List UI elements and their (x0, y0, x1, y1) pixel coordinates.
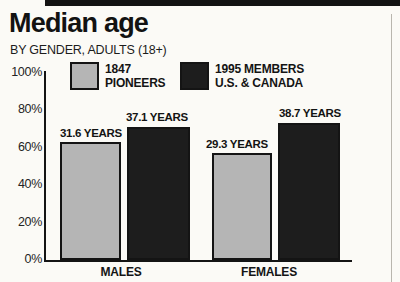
legend-label-members: 1995 MEMBERS U.S. & CANADA (215, 62, 304, 90)
legend-label-members-line1: 1995 MEMBERS (215, 62, 304, 76)
bar-value-females-members: 38.7 YEARS (279, 107, 341, 119)
bar-females-members (278, 123, 340, 260)
bar-males-members (127, 127, 190, 260)
legend-label-pioneers: 1847 PIONEERS (105, 62, 165, 90)
bar-value-males-members: 37.1 YEARS (126, 111, 188, 123)
chart-subtitle: BY GENDER, ADULTS (18+) (10, 43, 166, 57)
legend-swatch-pioneers (70, 62, 99, 90)
category-label-males: MALES (100, 265, 141, 279)
y-tick-80: 80% (0, 102, 42, 116)
bar-value-males-pioneers: 31.6 YEARS (60, 127, 122, 139)
bar-females-pioneers (212, 153, 272, 260)
legend-label-members-line2: U.S. & CANADA (215, 76, 303, 90)
top-rule (45, 0, 400, 6)
chart-title: Median age (9, 8, 148, 39)
legend-swatch-members (180, 62, 209, 90)
legend-label-pioneers-line2: PIONEERS (105, 76, 165, 90)
page-edge-line (391, 14, 392, 282)
y-tick-0: 0% (0, 252, 42, 266)
y-tick-20: 20% (0, 215, 42, 229)
bar-value-females-pioneers: 29.3 YEARS (206, 138, 268, 150)
category-label-females: FEMALES (241, 265, 297, 279)
x-axis-line (44, 260, 352, 262)
legend-label-pioneers-line1: 1847 (105, 62, 131, 76)
y-tick-40: 40% (0, 177, 42, 191)
y-tick-60: 60% (0, 140, 42, 154)
median-age-infographic: Median age BY GENDER, ADULTS (18+) 1847 … (0, 0, 400, 282)
y-tick-100: 100% (0, 65, 42, 79)
y-axis-line (44, 71, 46, 262)
bar-males-pioneers (60, 142, 121, 260)
